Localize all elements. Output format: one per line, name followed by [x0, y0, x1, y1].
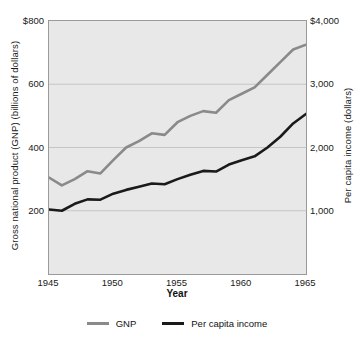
y-axis-right-tick-label: $4,000: [305, 15, 351, 26]
legend-item[interactable]: GNP: [87, 318, 137, 329]
chart-legend: GNPPer capita income: [48, 318, 306, 329]
y-axis-left-tick-label: 400: [2, 141, 48, 152]
y-axis-left-tick-label: 600: [2, 78, 48, 89]
x-axis-tick-label: 1945: [37, 277, 58, 288]
y-axis-left-ticks: 200400600$800: [0, 0, 48, 340]
x-axis-tick-label: 1950: [102, 277, 123, 288]
series-line-per-capita-income: [49, 114, 306, 211]
legend-swatch-icon: [162, 322, 184, 325]
y-axis-right-ticks: 1,0002,0003,000$4,000: [305, 0, 361, 340]
legend-label: Per capita income: [191, 318, 267, 329]
x-axis-title: Year: [48, 288, 306, 299]
y-axis-right-tick-label: 2,000: [305, 141, 351, 152]
y-axis-right-tick-label: 1,000: [305, 204, 351, 215]
legend-label: GNP: [116, 318, 137, 329]
series-line-gnp: [49, 45, 306, 186]
plot-area: [48, 20, 307, 275]
plot-canvas: [49, 21, 306, 274]
y-axis-left-tick-label: 200: [2, 204, 48, 215]
legend-item[interactable]: Per capita income: [162, 318, 267, 329]
gnp-per-capita-income-chart: Gross national product (GNP) (billions o…: [0, 0, 361, 340]
x-axis-tick-label: 1960: [230, 277, 251, 288]
y-axis-left-tick-label: $800: [2, 15, 48, 26]
legend-swatch-icon: [87, 322, 109, 325]
x-axis-tick-label: 1965: [294, 277, 315, 288]
x-axis-tick-label: 1955: [166, 277, 187, 288]
y-axis-right-tick-label: 3,000: [305, 78, 351, 89]
